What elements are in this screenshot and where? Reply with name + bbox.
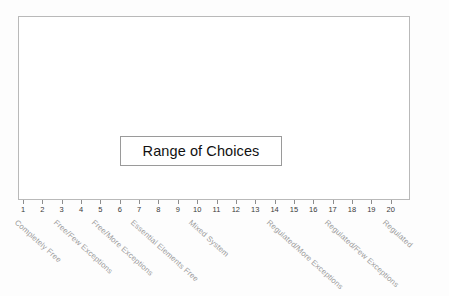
tick-mark-14 xyxy=(275,200,276,204)
tick-number-15: 15 xyxy=(284,205,304,214)
tick-mark-18 xyxy=(352,200,353,204)
tick-mark-10 xyxy=(197,200,198,204)
tick-number-3: 3 xyxy=(52,205,72,214)
tick-mark-13 xyxy=(255,200,256,204)
tick-number-18: 18 xyxy=(342,205,362,214)
tick-mark-3 xyxy=(62,200,63,204)
tick-number-6: 6 xyxy=(110,205,130,214)
plot-frame xyxy=(18,16,410,200)
range-of-choices-figure: Range of Choices 12345678910111213141516… xyxy=(0,0,449,296)
category-label-mixed-system: Mixed System xyxy=(187,218,231,259)
tick-number-2: 2 xyxy=(32,205,52,214)
tick-mark-20 xyxy=(391,200,392,204)
tick-number-7: 7 xyxy=(129,205,149,214)
tick-mark-7 xyxy=(139,200,140,204)
tick-mark-17 xyxy=(333,200,334,204)
category-label-regulated: Regulated xyxy=(381,218,414,249)
tick-number-5: 5 xyxy=(90,205,110,214)
tick-mark-8 xyxy=(158,200,159,204)
tick-mark-19 xyxy=(371,200,372,204)
tick-mark-11 xyxy=(217,200,218,204)
tick-mark-4 xyxy=(81,200,82,204)
tick-number-1: 1 xyxy=(13,205,33,214)
tick-mark-5 xyxy=(100,200,101,204)
tick-mark-16 xyxy=(313,200,314,204)
tick-mark-9 xyxy=(178,200,179,204)
tick-number-17: 17 xyxy=(323,205,343,214)
x-axis: 1234567891011121314151617181920 Complete… xyxy=(0,200,449,296)
tick-mark-15 xyxy=(294,200,295,204)
tick-number-4: 4 xyxy=(71,205,91,214)
tick-number-8: 8 xyxy=(148,205,168,214)
tick-number-9: 9 xyxy=(168,205,188,214)
tick-mark-6 xyxy=(120,200,121,204)
tick-number-14: 14 xyxy=(265,205,285,214)
range-of-choices-callout: Range of Choices xyxy=(120,136,282,166)
tick-mark-12 xyxy=(236,200,237,204)
tick-number-19: 19 xyxy=(361,205,381,214)
tick-number-12: 12 xyxy=(226,205,246,214)
tick-mark-2 xyxy=(42,200,43,204)
tick-number-13: 13 xyxy=(245,205,265,214)
tick-number-20: 20 xyxy=(381,205,401,214)
tick-number-16: 16 xyxy=(303,205,323,214)
tick-mark-1 xyxy=(23,200,24,204)
tick-number-11: 11 xyxy=(207,205,227,214)
callout-label: Range of Choices xyxy=(143,143,260,159)
tick-number-10: 10 xyxy=(187,205,207,214)
